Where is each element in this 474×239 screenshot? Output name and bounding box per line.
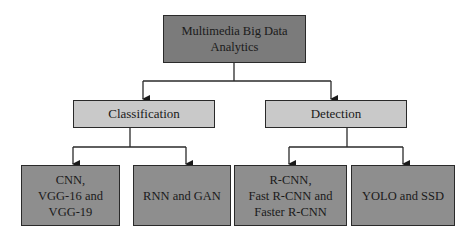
category-detection: Detection: [265, 100, 407, 128]
leaf-cnn-vgg: CNN, VGG-16 and VGG-19: [21, 165, 120, 226]
leaf-rcnn-family: R-CNN, Fast R-CNN and Faster R-CNN: [234, 165, 347, 226]
category-classification: Classification: [73, 100, 215, 128]
leaf-yolo-ssd: YOLO and SSD: [351, 165, 455, 226]
root-node: Multimedia Big Data Analytics: [163, 15, 306, 63]
leaf-rnn-gan: RNN and GAN: [133, 165, 231, 226]
